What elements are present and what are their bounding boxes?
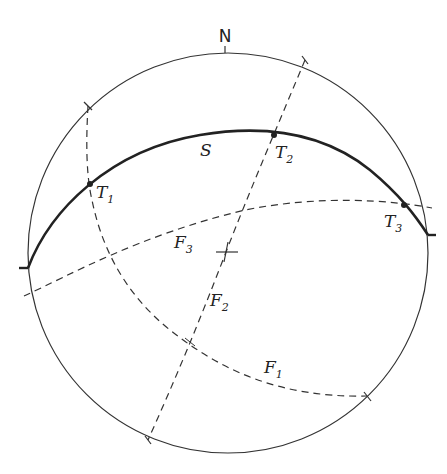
label-t1: T1 [96,182,114,206]
label-t2: T2 [275,142,293,166]
point-t3 [401,202,407,208]
point-t2 [271,132,277,138]
f2-end-tick-top [302,56,308,64]
label-s: S [200,140,212,160]
point-t1 [87,181,93,187]
label-f2: F2 [209,290,229,314]
great-circle-f3 [24,200,432,296]
label-f1: F1 [263,357,283,381]
label-t3: T3 [384,211,402,235]
great-circle-s [28,131,428,268]
north-label: N [219,26,232,46]
stereonet-diagram: N S T1 T2 T3 F3 F2 F1 [0,0,447,474]
label-f3: F3 [173,232,193,256]
